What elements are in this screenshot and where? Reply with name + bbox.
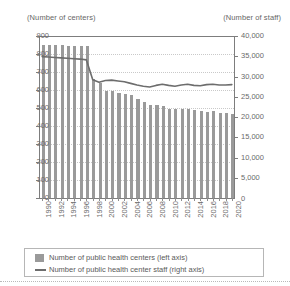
x-axis-tick-label: 1990 <box>45 201 53 218</box>
right-axis-tick-label: 15,000 <box>241 133 287 141</box>
x-axis-tick-mark <box>131 198 132 201</box>
x-axis-tick-mark <box>93 198 94 201</box>
x-axis-tick-label: 1992 <box>58 201 66 218</box>
legend-item-staff: Number of public health center staff (ri… <box>35 264 263 275</box>
staff-line-path <box>42 57 232 87</box>
x-axis-tick-mark <box>42 198 43 201</box>
x-axis-tick-mark <box>175 198 176 201</box>
left-axis-tick-mark <box>36 72 39 73</box>
x-axis-tick-mark <box>207 198 208 201</box>
x-axis-tick-mark <box>86 198 87 201</box>
right-axis-tick-label: 20,000 <box>241 113 287 121</box>
left-axis-tick-label: 700 <box>15 68 49 76</box>
x-axis-tick-mark <box>200 198 201 201</box>
x-axis-tick-label: 2004 <box>134 201 142 218</box>
left-axis-tick-mark <box>36 162 39 163</box>
left-axis-tick-mark <box>36 54 39 55</box>
right-axis-zero-label: 0 <box>241 194 245 203</box>
left-axis-tick-label: 200 <box>15 158 49 166</box>
x-axis-tick-mark <box>150 198 151 201</box>
x-axis-tick-label: 2000 <box>108 201 116 218</box>
right-axis-tick-mark <box>235 137 238 138</box>
left-axis-tick-mark <box>36 144 39 145</box>
line-swatch-icon <box>35 269 46 271</box>
left-axis-tick-label: 400 <box>15 122 49 130</box>
right-axis-tick-label: 40,000 <box>241 32 287 40</box>
legend-item-centers-label: Number of public health centers (left ax… <box>49 253 187 262</box>
right-axis-tick-mark <box>235 36 238 37</box>
x-axis-tick-mark <box>137 198 138 201</box>
x-axis-tick-mark <box>48 198 49 201</box>
x-axis-tick-label: 2008 <box>159 201 167 218</box>
right-axis-tick-label: 35,000 <box>241 52 287 60</box>
x-axis-tick-label: 1996 <box>83 201 91 218</box>
x-axis-tick-label: 1998 <box>96 201 104 218</box>
right-axis-tick-mark <box>235 158 238 159</box>
left-axis-tick-label: 300 <box>15 140 49 148</box>
x-axis-tick-mark <box>55 198 56 201</box>
left-axis-caption: (Number of centers) <box>27 13 96 22</box>
right-axis-tick-mark <box>235 77 238 78</box>
x-axis-tick-mark <box>80 198 81 201</box>
x-axis-tick-label: 2020 <box>235 201 243 218</box>
left-axis-tick-mark <box>36 36 39 37</box>
left-axis-tick-label: 100 <box>15 176 49 184</box>
right-axis-tick-mark <box>235 97 238 98</box>
line-series <box>39 36 235 198</box>
x-axis-tick-label: 2014 <box>197 201 205 218</box>
x-axis-labels: 1990199219941996199820002002200420062008… <box>39 199 235 241</box>
x-axis-tick-mark <box>124 198 125 201</box>
x-axis-tick-mark <box>232 198 233 201</box>
right-axis-tick-mark <box>235 178 238 179</box>
x-axis-tick-label: 2018 <box>222 201 230 218</box>
legend-item-staff-label: Number of public health center staff (ri… <box>49 265 204 274</box>
right-axis-tick-label: 10,000 <box>241 154 287 162</box>
x-axis-tick-label: 2016 <box>210 201 218 218</box>
bottom-divider <box>0 281 290 282</box>
left-axis-tick-mark <box>36 90 39 91</box>
right-axis-tick-label: 5,000 <box>241 174 287 182</box>
left-axis-tick-label: 900 <box>15 32 49 40</box>
x-axis-tick-mark <box>156 198 157 201</box>
right-axis-tick-mark <box>235 56 238 57</box>
x-axis-tick-label: 1994 <box>70 201 78 218</box>
chart-legend: Number of public health centers (left ax… <box>24 248 264 277</box>
left-axis-tick-label: 600 <box>15 86 49 94</box>
left-axis-tick-mark <box>36 126 39 127</box>
left-axis-tick-label: 800 <box>15 50 49 58</box>
x-axis-tick-mark <box>213 198 214 201</box>
x-axis-tick-mark <box>118 198 119 201</box>
x-axis-tick-mark <box>61 198 62 201</box>
x-axis-tick-mark <box>74 198 75 201</box>
x-axis-tick-mark <box>162 198 163 201</box>
x-axis-tick-mark <box>169 198 170 201</box>
x-axis-tick-label: 2010 <box>172 201 180 218</box>
x-axis-tick-label: 2006 <box>146 201 154 218</box>
x-axis-tick-mark <box>112 198 113 201</box>
right-axis-caption: (Number of staff) <box>223 13 281 22</box>
left-axis-tick-mark <box>36 180 39 181</box>
x-axis-tick-mark <box>194 198 195 201</box>
x-axis-tick-mark <box>188 198 189 201</box>
left-axis-tick-label: 500 <box>15 104 49 112</box>
right-axis-tick-label: 30,000 <box>241 73 287 81</box>
x-axis-tick-mark <box>226 198 227 201</box>
x-axis-tick-label: 2002 <box>121 201 129 218</box>
x-axis-tick-label: 2012 <box>184 201 192 218</box>
right-axis-tick-label: 25,000 <box>241 93 287 101</box>
legend-item-centers: Number of public health centers (left ax… <box>35 252 263 263</box>
bar-swatch-icon <box>35 254 44 262</box>
chart-container: (Number of centers) (Number of staff) 90… <box>0 0 290 286</box>
right-axis-tick-mark <box>235 117 238 118</box>
x-axis-tick-mark <box>99 198 100 201</box>
left-axis-tick-mark <box>36 108 39 109</box>
